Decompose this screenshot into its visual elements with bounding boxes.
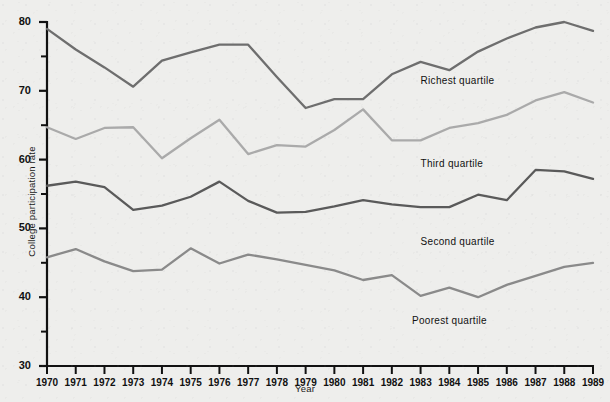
- series-label-0: Richest quartile: [421, 75, 495, 86]
- y-tick-label: 70: [3, 84, 31, 96]
- series-label-3: Poorest quartile: [412, 315, 487, 326]
- y-tick-label: 50: [3, 221, 31, 233]
- y-tick-label: 80: [3, 15, 31, 27]
- series-line-0: [47, 22, 593, 108]
- series-line-3: [47, 248, 593, 297]
- series-lines-group: [47, 22, 593, 297]
- series-line-1: [47, 92, 593, 158]
- y-tick-label: 60: [3, 153, 31, 165]
- x-tick-label: 1989: [576, 377, 610, 388]
- chart-figure: College participation rate Year 30405060…: [0, 0, 610, 402]
- chart-plot-svg: [0, 0, 610, 402]
- y-axis-ticks: [39, 22, 47, 366]
- y-tick-label: 40: [3, 290, 31, 302]
- series-line-2: [47, 170, 593, 213]
- y-axis-title: College participation rate: [26, 127, 37, 277]
- series-label-1: Third quartile: [421, 158, 484, 169]
- x-axis-ticks: [47, 366, 593, 374]
- series-label-2: Second quartile: [421, 236, 495, 247]
- y-tick-label: 30: [3, 359, 31, 371]
